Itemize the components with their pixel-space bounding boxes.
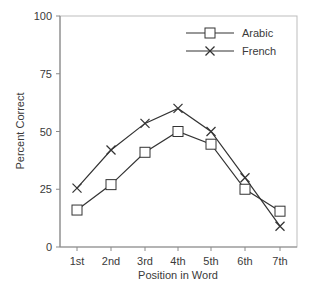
line-chart: 0255075100 1st2nd3rd4th5th6th7th ArabicF… [0, 0, 312, 296]
y-tick-label: 75 [40, 68, 52, 80]
y-axis: 0255075100 [34, 10, 60, 253]
x-marker-icon [107, 145, 116, 154]
x-marker-icon [141, 119, 150, 128]
x-tick-label: 1st [70, 255, 85, 267]
square-marker-icon [240, 184, 250, 194]
data-series [72, 104, 285, 231]
square-marker-icon [205, 28, 215, 38]
x-marker-icon [241, 173, 250, 182]
x-marker-icon [276, 222, 285, 231]
legend-label: French [242, 45, 276, 57]
x-marker-icon [73, 184, 82, 193]
square-marker-icon [72, 205, 82, 215]
x-marker-icon [174, 104, 183, 113]
square-marker-icon [140, 147, 150, 157]
y-tick-label: 0 [46, 241, 52, 253]
y-tick-label: 100 [34, 10, 52, 22]
square-marker-icon [106, 180, 116, 190]
x-tick-label: 7th [272, 255, 287, 267]
series-arabic [72, 127, 285, 217]
square-marker-icon [173, 127, 183, 137]
series-french [73, 104, 285, 231]
legend-item-french: French [186, 45, 276, 57]
x-tick-label: 5th [203, 255, 218, 267]
y-tick-label: 50 [40, 126, 52, 138]
square-marker-icon [206, 139, 216, 149]
square-marker-icon [275, 206, 285, 216]
x-tick-label: 2nd [102, 255, 120, 267]
x-axis-label: Position in Word [138, 269, 218, 281]
legend-item-arabic: Arabic [186, 27, 274, 39]
x-marker-icon [207, 127, 216, 136]
x-tick-label: 4th [170, 255, 185, 267]
x-axis: 1st2nd3rd4th5th6th7th [70, 247, 288, 267]
legend-label: Arabic [242, 27, 274, 39]
x-tick-label: 6th [237, 255, 252, 267]
legend: ArabicFrench [186, 27, 276, 57]
y-tick-label: 25 [40, 183, 52, 195]
y-axis-label: Percent Correct [14, 92, 26, 169]
series-line [77, 132, 280, 212]
x-tick-label: 3rd [137, 255, 153, 267]
